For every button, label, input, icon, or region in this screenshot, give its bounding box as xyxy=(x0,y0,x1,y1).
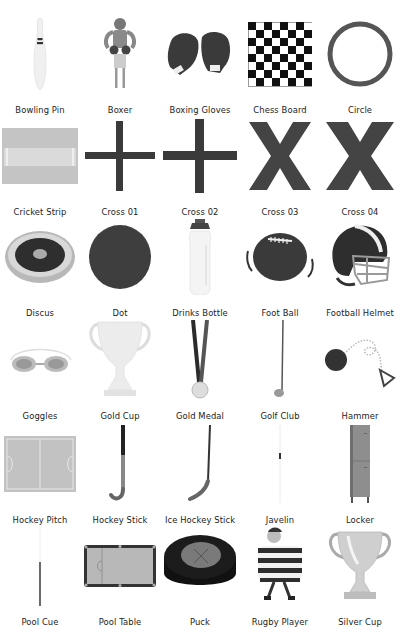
dot-icon xyxy=(80,213,160,301)
gallery-item-javelin[interactable]: Javelin xyxy=(240,420,320,523)
gallery-item-gold-medal[interactable]: Gold Medal xyxy=(160,316,240,419)
hammer-icon xyxy=(320,316,400,404)
gallery-item-drinks-bottle[interactable]: Drinks Bottle xyxy=(160,213,240,316)
boxing-gloves-icon xyxy=(160,10,240,98)
pool-table-icon xyxy=(80,522,160,610)
gallery-item-gold-cup[interactable]: Gold Cup xyxy=(80,316,160,419)
gallery-item-cross-03[interactable]: Cross 03 xyxy=(240,112,320,215)
javelin-icon xyxy=(240,420,320,508)
gallery-item-boxer[interactable]: Boxer xyxy=(80,10,160,113)
item-label: Rugby Player xyxy=(234,617,326,627)
gallery-item-boxing-gloves[interactable]: Boxing Gloves xyxy=(160,10,240,113)
item-label: Silver Cup xyxy=(314,617,403,627)
gallery-item-locker[interactable]: Locker xyxy=(320,420,400,523)
cross-01-icon xyxy=(80,112,160,200)
gallery-item-pool-table[interactable]: Pool Table xyxy=(80,522,160,625)
gallery-item-puck[interactable]: Puck xyxy=(160,522,240,625)
football-helmet-icon xyxy=(320,213,400,301)
gallery-item-rugby-player[interactable]: Rugby Player xyxy=(240,522,320,625)
ice-hockey-stick-icon xyxy=(160,420,240,508)
silver-cup-icon xyxy=(320,522,400,610)
gallery-item-cross-01[interactable]: Cross 01 xyxy=(80,112,160,215)
football-icon xyxy=(240,213,320,301)
gallery-item-cross-02[interactable]: Cross 02 xyxy=(160,112,240,215)
gallery-item-hockey-stick[interactable]: Hockey Stick xyxy=(80,420,160,523)
puck-icon xyxy=(160,522,240,610)
gallery-item-hammer[interactable]: Hammer xyxy=(320,316,400,419)
gallery-item-bowling-pin[interactable]: Bowling Pin xyxy=(0,10,80,113)
cross-02-icon xyxy=(160,112,240,200)
boxer-icon xyxy=(80,10,160,98)
circle-icon xyxy=(320,10,400,98)
gallery-item-football-helmet[interactable]: Football Helmet xyxy=(320,213,400,316)
gold-medal-icon xyxy=(160,316,240,404)
item-label: Pool Table xyxy=(74,617,166,627)
hockey-pitch-icon xyxy=(0,420,80,508)
goggles-icon xyxy=(0,316,80,404)
cricket-strip-icon xyxy=(0,112,80,200)
gallery-item-dot[interactable]: Dot xyxy=(80,213,160,316)
gallery-item-golf-club[interactable]: Golf Club xyxy=(240,316,320,419)
chess-board-icon xyxy=(240,10,320,98)
hockey-stick-icon xyxy=(80,420,160,508)
golf-club-icon xyxy=(240,316,320,404)
pool-cue-icon xyxy=(0,522,80,610)
gallery-item-circle[interactable]: Circle xyxy=(320,10,400,113)
bowling-pin-icon xyxy=(0,10,80,98)
gallery-item-cricket-strip[interactable]: Cricket Strip xyxy=(0,112,80,215)
gallery-item-cross-04[interactable]: Cross 04 xyxy=(320,112,400,215)
gallery-item-foot-ball[interactable]: Foot Ball xyxy=(240,213,320,316)
gallery-item-discus[interactable]: Discus xyxy=(0,213,80,316)
cross-04-icon xyxy=(320,112,400,200)
locker-icon xyxy=(320,420,400,508)
drinks-bottle-icon xyxy=(160,213,240,301)
discus-icon xyxy=(0,213,80,301)
gallery-item-goggles[interactable]: Goggles xyxy=(0,316,80,419)
gallery-item-pool-cue[interactable]: Pool Cue xyxy=(0,522,80,625)
gallery-item-hockey-pitch[interactable]: Hockey Pitch xyxy=(0,420,80,523)
item-label: Puck xyxy=(154,617,246,627)
gallery-item-ice-hockey-stick[interactable]: Ice Hockey Stick xyxy=(160,420,240,523)
rugby-player-icon xyxy=(240,522,320,610)
gallery-item-silver-cup[interactable]: Silver Cup xyxy=(320,522,400,625)
gold-cup-icon xyxy=(80,316,160,404)
cross-03-icon xyxy=(240,112,320,200)
gallery-item-chess-board[interactable]: Chess Board xyxy=(240,10,320,113)
